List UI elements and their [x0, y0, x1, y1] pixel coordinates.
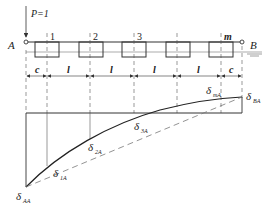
- dim-label-c-right: c: [229, 64, 234, 75]
- svg-text:δ: δ: [16, 190, 22, 202]
- point-label-m: m: [224, 31, 232, 42]
- label-delta-3a: δ 3A: [134, 120, 148, 134]
- beam-segment: [79, 42, 103, 57]
- dim-label-l-2: l: [110, 64, 113, 75]
- dim-label-l-3: l: [153, 64, 156, 75]
- svg-text:1A: 1A: [60, 175, 67, 181]
- support-b-label: B: [250, 39, 257, 51]
- support-a-label: A: [7, 39, 15, 51]
- beam: [26, 42, 262, 57]
- ground-symbol: [247, 54, 262, 56]
- point-label-1: 1: [50, 31, 55, 42]
- dim-label-c-left: c: [35, 64, 40, 75]
- label-delta-2a: δ 2A: [88, 141, 102, 155]
- point-label-2: 2: [93, 31, 98, 42]
- svg-text:δ: δ: [206, 84, 212, 96]
- load-label: P=1: [30, 8, 49, 19]
- svg-text:δ: δ: [246, 90, 252, 102]
- svg-text:BA: BA: [253, 98, 261, 104]
- svg-text:δ: δ: [88, 141, 94, 153]
- svg-text:δ: δ: [134, 120, 140, 132]
- support-b-hinge: [240, 40, 244, 44]
- label-delta-aa: δ AA: [16, 190, 31, 204]
- svg-text:2A: 2A: [95, 149, 102, 155]
- svg-text:δ: δ: [53, 167, 59, 179]
- point-label-3: 3: [137, 31, 142, 42]
- dim-label-l-4: l: [197, 64, 200, 75]
- svg-text:mA: mA: [213, 92, 221, 98]
- dim-label-l-1: l: [67, 64, 70, 75]
- label-delta-ma: δ mA: [206, 84, 221, 98]
- beam-segment: [166, 42, 190, 57]
- label-delta-1a: δ 1A: [53, 167, 67, 181]
- label-delta-ba: δ BA: [246, 90, 261, 104]
- influence-line-diagram: P=1 A B 1 2 3 m c l l: [0, 0, 272, 207]
- svg-text:3A: 3A: [140, 128, 148, 134]
- svg-text:AA: AA: [22, 198, 31, 204]
- support-a-hinge: [24, 40, 28, 44]
- guide-lines: [26, 33, 242, 113]
